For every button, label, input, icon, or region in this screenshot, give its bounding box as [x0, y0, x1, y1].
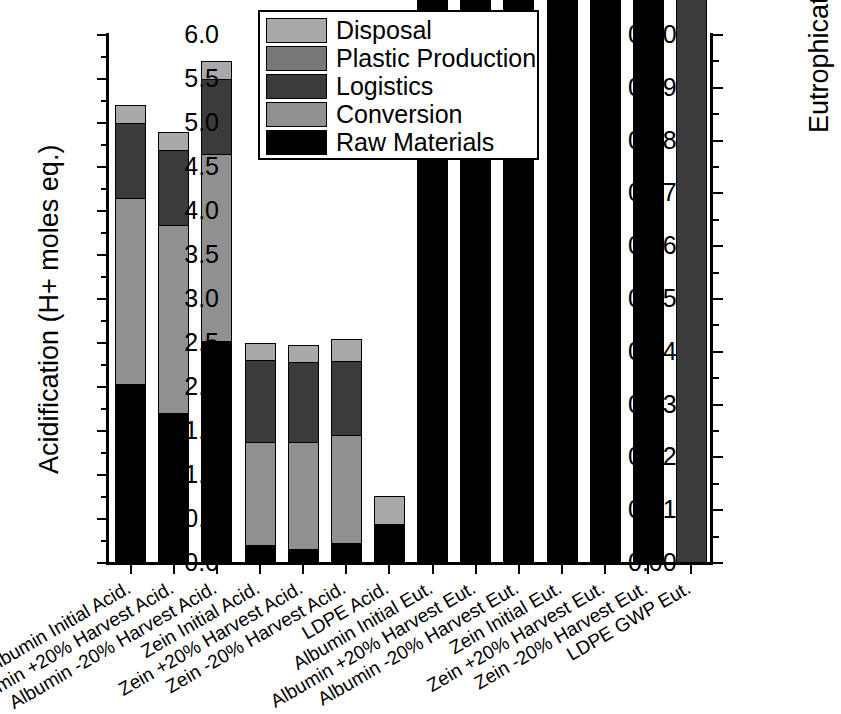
x-axis-tick — [604, 563, 606, 574]
y-axis-left-minor-tick — [101, 320, 108, 322]
x-axis-tick — [259, 563, 261, 574]
bar-segment-logistics — [245, 360, 276, 442]
bar-segment-raw-materials — [547, 0, 578, 563]
y-axis-right-tick-label: 0.09 — [628, 75, 677, 100]
x-axis-category-label: Zein -20% Harvest Acid. — [163, 578, 349, 696]
y-axis-right-tick-label: 0.07 — [628, 180, 677, 205]
y-axis-left-tick — [97, 78, 108, 80]
y-axis-left-tick-label: 0.0 — [184, 550, 219, 575]
legend-swatch-raw-materials — [266, 130, 327, 155]
bar-segment-logistics — [288, 362, 319, 441]
x-axis-category-label: LDPE Acid. — [299, 578, 392, 643]
x-axis-category-label: Albumin Initial Acid. — [0, 578, 133, 677]
legend-label: Plastic Production — [336, 46, 536, 71]
y-axis-left-tick — [97, 122, 108, 124]
x-axis-tick — [130, 563, 132, 574]
legend-item: Logistics — [266, 72, 531, 100]
x-axis-tick — [518, 563, 520, 574]
bar-segment-raw-materials — [245, 545, 276, 563]
y-axis-right-minor-tick — [712, 430, 719, 432]
x-axis-category-label: Zein +20% Harvest Eut. — [424, 578, 608, 695]
y-axis-right-tick — [712, 456, 723, 458]
y-axis-right-minor-tick — [712, 377, 719, 379]
legend-item: Raw Materials — [266, 128, 531, 156]
y-axis-left-minor-tick — [101, 408, 108, 410]
y-axis-right-minor-tick — [712, 60, 719, 62]
x-axis-category-label: LDPE GWP Eut. — [564, 578, 694, 664]
y-axis-left-minor-tick — [101, 496, 108, 498]
bar-segment-disposal — [288, 345, 319, 363]
bar-segment-disposal — [115, 105, 146, 123]
y-axis-left-minor-tick — [101, 144, 108, 146]
y-axis-left-tick-label: 4.0 — [184, 198, 219, 223]
bar-14 — [676, 35, 707, 563]
y-axis-left-tick — [97, 166, 108, 168]
y-axis-left-minor-tick — [101, 188, 108, 190]
y-axis-left-tick — [97, 386, 108, 388]
x-axis-category-label: Albumin +20% Harvest Acid. — [0, 578, 176, 714]
y-axis-left-tick-label: 0.5 — [184, 506, 219, 531]
x-axis-category-label: Zein Initial Acid. — [138, 578, 263, 661]
x-axis-category-label: Zein +20% Harvest Acid. — [116, 578, 306, 699]
y-axis-right-tick-label: 0.01 — [628, 497, 677, 522]
y-axis-right-minor-tick — [712, 324, 719, 326]
y-axis-left-tick — [97, 430, 108, 432]
y-axis-left-tick — [97, 518, 108, 520]
y-axis-right-tick — [712, 562, 723, 564]
x-axis-category-label: Albumin +20% Harvest Eut. — [267, 578, 478, 711]
y-axis-right-tick-label: 0.08 — [628, 128, 677, 153]
y-axis-right-minor-tick — [712, 113, 719, 115]
chart-legend: DisposalPlastic ProductionLogisticsConve… — [258, 10, 539, 160]
bar-segment-raw-materials — [288, 549, 319, 563]
legend-swatch-conversion — [266, 102, 327, 127]
legend-item: Disposal — [266, 16, 531, 44]
bar-segment-disposal — [374, 496, 405, 524]
y-axis-left-minor-tick — [101, 364, 108, 366]
bar-1 — [115, 35, 146, 563]
x-axis-tick — [302, 563, 304, 574]
y-axis-right-tick-label: 0.05 — [628, 286, 677, 311]
y-axis-right-tick — [712, 351, 723, 353]
y-axis-left-tick — [97, 342, 108, 344]
y-axis-left-tick — [97, 34, 108, 36]
y-axis-left-tick-label: 6.0 — [184, 22, 219, 47]
y-axis-left-minor-tick — [101, 232, 108, 234]
bar-segment-conversion — [288, 442, 319, 549]
legend-label: Logistics — [336, 74, 433, 99]
bar-segment-raw-materials — [374, 524, 405, 563]
legend-swatch-disposal — [266, 18, 327, 43]
y-axis-right-tick-label: 0.10 — [628, 22, 677, 47]
bar-segment-conversion — [115, 198, 146, 385]
y-axis-left-title: Acidification (H+ moles eq.) — [34, 145, 65, 474]
y-axis-left-tick-label: 4.5 — [184, 154, 219, 179]
y-axis-left-tick — [97, 254, 108, 256]
y-axis-right-tick — [712, 245, 723, 247]
y-axis-right-tick — [712, 87, 723, 89]
y-axis-right-tick — [712, 140, 723, 142]
y-axis-left-tick-label: 5.5 — [184, 66, 219, 91]
bar-12 — [590, 35, 621, 563]
bar-segment-logistics — [115, 123, 146, 198]
legend-label: Raw Materials — [336, 130, 494, 155]
y-axis-right-minor-tick — [712, 272, 719, 274]
bar-segment-raw-materials — [331, 543, 362, 563]
x-axis-tick — [388, 563, 390, 574]
x-axis-tick — [561, 563, 563, 574]
legend-swatch-logistics — [266, 74, 327, 99]
y-axis-right-minor-tick — [712, 166, 719, 168]
y-axis-right-minor-tick — [712, 483, 719, 485]
y-axis-left-tick-label: 3.0 — [184, 286, 219, 311]
y-axis-left-minor-tick — [101, 100, 108, 102]
x-axis-category-label: Albumin -20% Harvest Acid. — [6, 578, 219, 712]
y-axis-left-tick-label: 2.5 — [184, 330, 219, 355]
x-axis-category-label: Zein -20% Harvest Eut. — [471, 578, 651, 693]
y-axis-left-tick-label: 1.0 — [184, 462, 219, 487]
y-axis-right-minor-tick — [712, 219, 719, 221]
y-axis-left-minor-tick — [101, 56, 108, 58]
y-axis-left-tick-label: 1.5 — [184, 418, 219, 443]
x-axis-category-label: Albumin Initial Eut. — [289, 578, 435, 673]
bar-11 — [547, 35, 578, 563]
y-axis-left-minor-tick — [101, 452, 108, 454]
y-axis-left-tick-label: 2.0 — [184, 374, 219, 399]
